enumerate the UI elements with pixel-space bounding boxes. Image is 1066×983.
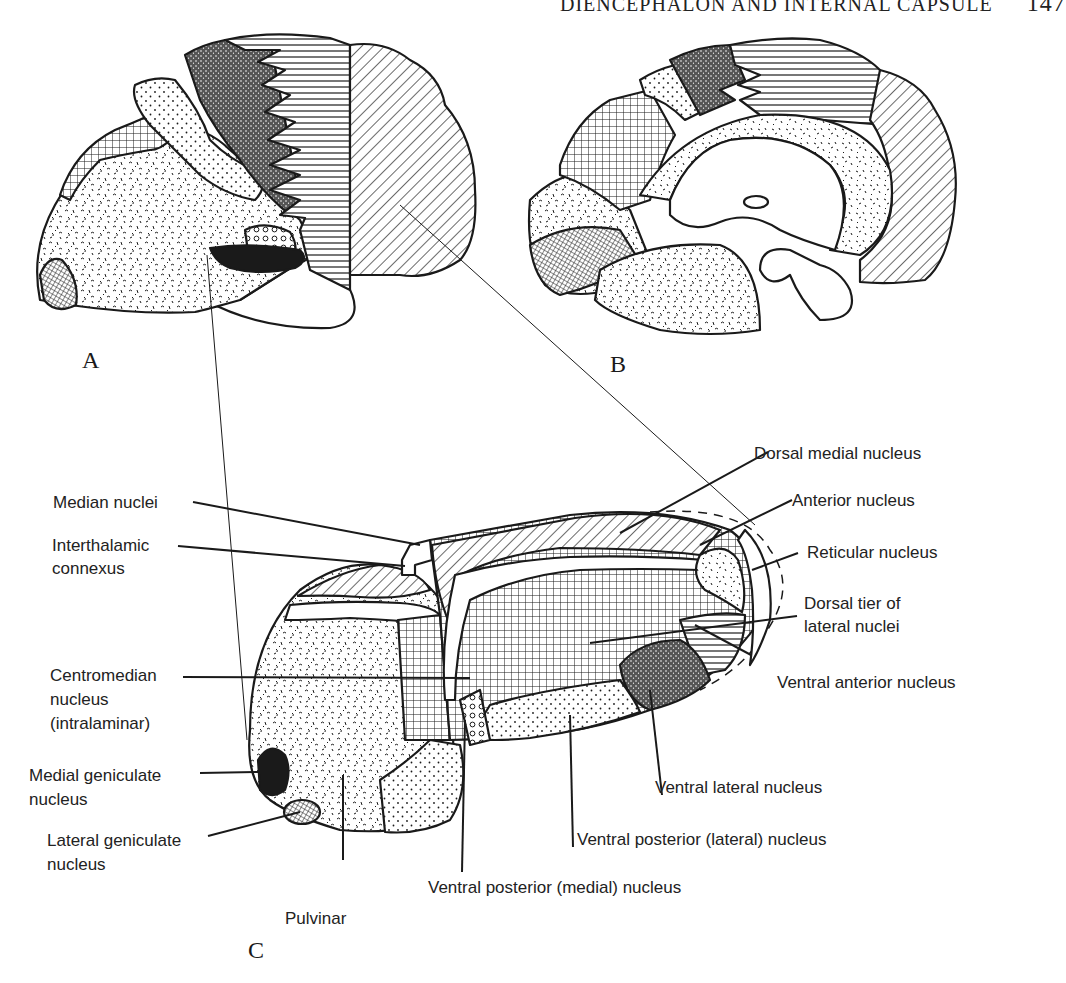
- label-centromedian-line1: Centromedian: [50, 665, 157, 687]
- label-anterior-nucleus: Anterior nucleus: [792, 490, 915, 512]
- label-medial-geniculate-line1: Medial geniculate: [29, 765, 161, 787]
- panel-letter-c: C: [248, 937, 264, 963]
- label-medial-geniculate-line2: nucleus: [29, 789, 88, 811]
- label-reticular-nucleus: Reticular nucleus: [807, 542, 937, 564]
- brain-medial-view: [529, 38, 956, 334]
- label-ventral-posterior-medial-nucleus: Ventral posterior (medial) nucleus: [428, 877, 681, 899]
- label-interthalamic-connexus-line2: connexus: [52, 558, 125, 580]
- label-dorsal-tier-line1: Dorsal tier of: [804, 593, 900, 615]
- label-median-nuclei: Median nuclei: [53, 492, 158, 514]
- label-centromedian-line3: (intralaminar): [50, 713, 150, 735]
- label-ventral-lateral-nucleus: Ventral lateral nucleus: [655, 777, 822, 799]
- brain-lateral-view: [37, 34, 475, 328]
- label-ventral-posterior-lateral-nucleus: Ventral posterior (lateral) nucleus: [577, 829, 826, 851]
- label-lateral-geniculate-line2: nucleus: [47, 854, 106, 876]
- panel-letter-a: A: [82, 347, 100, 373]
- label-interthalamic-connexus-line1: Interthalamic: [52, 535, 149, 557]
- label-dorsal-medial-nucleus: Dorsal medial nucleus: [754, 443, 921, 465]
- label-pulvinar: Pulvinar: [285, 908, 346, 930]
- label-lateral-geniculate-line1: Lateral geniculate: [47, 830, 181, 852]
- projection-line-a: [207, 255, 247, 740]
- label-centromedian-line2: nucleus: [50, 689, 109, 711]
- panel-letter-b: B: [610, 351, 626, 377]
- label-dorsal-tier-line2: lateral nuclei: [804, 616, 899, 638]
- label-ventral-anterior-nucleus: Ventral anterior nucleus: [777, 672, 956, 694]
- page-number: 147: [1027, 0, 1066, 16]
